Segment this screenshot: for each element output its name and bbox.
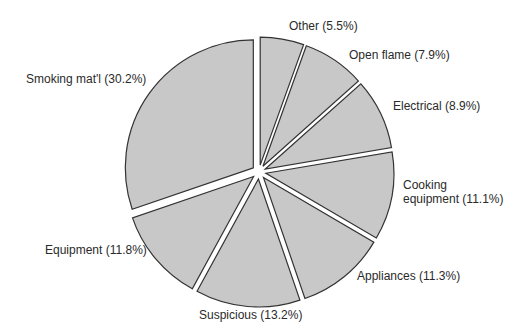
label-open-flame: Open flame (7.9%)	[349, 48, 450, 62]
label-electrical: Electrical (8.9%)	[393, 99, 480, 113]
label-cooking-line1: Cooking	[403, 178, 504, 192]
label-cooking-equipment: Cooking equipment (11.1%)	[403, 178, 504, 206]
label-smoking: Smoking mat'l (30.2%)	[26, 72, 146, 86]
label-appliances: Appliances (11.3%)	[357, 269, 460, 283]
label-suspicious: Suspicious (13.2%)	[199, 308, 302, 322]
label-cooking-line2: equipment (11.1%)	[403, 192, 504, 206]
label-other: Other (5.5%)	[289, 19, 358, 33]
label-equipment: Equipment (11.8%)	[45, 243, 147, 257]
pie-slices	[125, 37, 394, 307]
